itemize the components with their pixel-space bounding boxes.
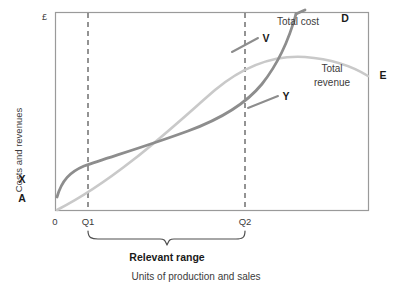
relevant-range-brace xyxy=(88,231,245,245)
series-label-total-cost: Total cost xyxy=(277,16,319,27)
origin-label: 0 xyxy=(52,216,57,227)
point-label-x: X xyxy=(18,173,25,185)
x-tick-q2: Q2 xyxy=(239,216,252,227)
point-label-y: Y xyxy=(282,90,289,102)
series-label-total-revenue-line1: Total xyxy=(321,63,342,74)
point-label-e: E xyxy=(379,69,386,81)
point-label-d: D xyxy=(341,12,349,24)
x-axis-title: Units of production and sales xyxy=(132,271,261,282)
relevant-range-label: Relevant range xyxy=(129,251,204,263)
figure-canvas: £ Costs and revenues 0 Q1 Q2 X A V Y D E… xyxy=(0,0,396,285)
point-label-v: V xyxy=(262,32,269,44)
series-label-total-revenue-line2: revenue xyxy=(314,77,351,88)
cvp-chart: £ Costs and revenues 0 Q1 Q2 X A V Y D E… xyxy=(0,0,396,285)
plot-frame xyxy=(56,13,369,211)
x-tick-q1: Q1 xyxy=(82,216,95,227)
currency-symbol: £ xyxy=(42,12,47,22)
point-label-a: A xyxy=(18,192,26,204)
